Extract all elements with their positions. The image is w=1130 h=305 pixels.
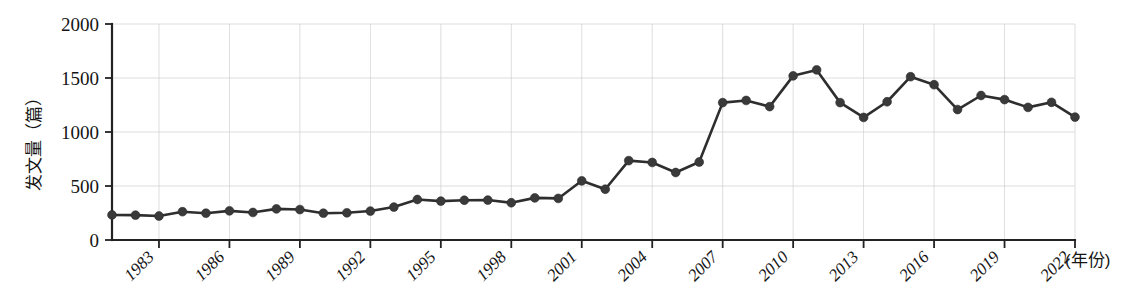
data-point-marker — [1047, 98, 1056, 107]
x-tick-label: 2004 — [614, 247, 652, 285]
x-tick-label: 1986 — [191, 247, 229, 285]
data-point-marker — [812, 66, 821, 75]
y-tick-label: 0 — [90, 230, 100, 251]
data-point-marker — [789, 71, 798, 80]
data-point-marker — [225, 206, 234, 215]
data-point-marker — [530, 193, 539, 202]
data-point-marker — [1071, 113, 1080, 122]
data-point-marker — [977, 91, 986, 100]
data-point-marker — [389, 203, 398, 212]
data-point-marker — [742, 96, 751, 105]
data-point-marker — [272, 205, 281, 214]
data-point-marker — [249, 208, 258, 217]
data-point-marker — [366, 207, 375, 216]
data-point-marker — [648, 158, 657, 167]
x-tick-label: 1998 — [473, 247, 511, 285]
data-point-marker — [930, 80, 939, 89]
data-point-marker — [859, 113, 868, 122]
x-tick-label: 2013 — [825, 247, 862, 284]
data-point-marker — [319, 209, 328, 218]
x-axis-title: (年份) — [1065, 251, 1110, 270]
data-point-marker — [671, 168, 680, 177]
x-tick-label: 2016 — [895, 247, 933, 285]
data-point-marker — [436, 197, 445, 206]
x-tick-label: 2001 — [543, 247, 580, 284]
x-tick-label: 1992 — [332, 247, 370, 285]
y-tick-label: 500 — [71, 176, 100, 197]
y-axis-title: 发文量（篇） — [25, 89, 44, 191]
data-point-marker — [836, 98, 845, 107]
x-tick-label: 2010 — [754, 247, 792, 285]
chart-canvas: 0500100015002000 19831986198919921995199… — [0, 0, 1130, 305]
series-markers — [108, 66, 1080, 221]
data-point-marker — [883, 97, 892, 106]
x-tick-label: 2007 — [684, 246, 723, 285]
data-point-marker — [460, 196, 469, 205]
data-point-marker — [131, 211, 140, 220]
x-axis-ticks: 1983198619891992199519982001200420072010… — [120, 240, 1075, 285]
data-point-marker — [906, 72, 915, 81]
data-series — [108, 66, 1080, 221]
data-point-marker — [155, 212, 164, 221]
data-point-marker — [554, 194, 563, 203]
data-point-marker — [296, 205, 305, 214]
series-line-path — [112, 70, 1075, 216]
data-point-marker — [624, 156, 633, 165]
x-tick-label: 1983 — [120, 247, 157, 284]
data-point-marker — [718, 98, 727, 107]
data-point-marker — [108, 211, 117, 220]
y-tick-label: 2000 — [61, 14, 99, 35]
y-tick-label: 1500 — [61, 68, 99, 89]
x-tick-label: 1995 — [402, 247, 439, 284]
y-tick-label: 1000 — [61, 122, 99, 143]
data-point-marker — [953, 105, 962, 114]
line-chart-figure: 0500100015002000 19831986198919921995199… — [0, 0, 1130, 305]
data-point-marker — [577, 176, 586, 185]
data-point-marker — [413, 195, 422, 204]
data-point-marker — [601, 185, 610, 194]
axis-titles: 发文量（篇） (年份) — [25, 89, 1110, 270]
data-point-marker — [765, 102, 774, 111]
data-point-marker — [342, 208, 351, 217]
data-point-marker — [483, 196, 492, 205]
data-point-marker — [202, 209, 211, 218]
data-point-marker — [507, 198, 516, 207]
grid-lines — [112, 24, 1075, 240]
data-point-marker — [178, 207, 187, 216]
x-tick-label: 1989 — [261, 247, 299, 285]
data-point-marker — [1024, 103, 1033, 112]
data-point-marker — [695, 158, 704, 167]
x-tick-label: 2019 — [966, 247, 1004, 285]
y-axis-ticks: 0500100015002000 — [61, 14, 112, 251]
data-point-marker — [1000, 95, 1009, 104]
